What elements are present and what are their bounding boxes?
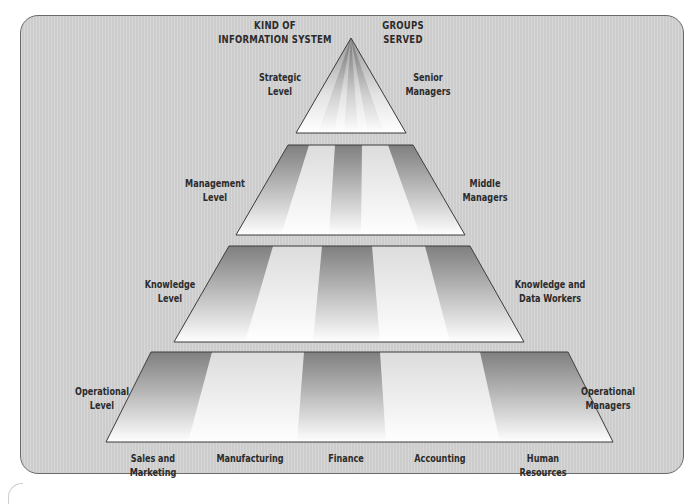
label-line: Middle — [451, 176, 520, 190]
label-operational-managers: Operational Managers — [569, 384, 646, 412]
label-line: Managers — [394, 84, 463, 98]
header-right-line-2: SERVED — [373, 33, 433, 47]
label-line: Managers — [451, 190, 520, 204]
label-line: Senior — [394, 70, 463, 84]
label-management-level: Management Level — [176, 176, 253, 204]
label-line: Managers — [569, 398, 646, 412]
header-right-line-1: GROUPS — [373, 19, 433, 33]
label-line: Level — [68, 398, 137, 412]
label-line: Management — [176, 176, 253, 190]
label-senior-managers: Senior Managers — [394, 70, 463, 98]
label-line: Operational — [68, 384, 137, 398]
label-knowledge-level: Knowledge Level — [136, 277, 205, 305]
label-strategic-level: Strategic Level — [250, 70, 310, 98]
label-line: Operational — [569, 384, 646, 398]
label-operational-level: Operational Level — [68, 384, 137, 412]
label-manufacturing: Manufacturing — [207, 451, 293, 465]
label-line: Level — [250, 84, 310, 98]
tier-knowledge — [174, 246, 524, 342]
label-line: Strategic — [250, 70, 310, 84]
label-line: Finance — [316, 451, 376, 465]
label-line: Level — [176, 190, 253, 204]
label-line: Level — [136, 291, 205, 305]
label-sales-and-marketing: Sales and Marketing — [119, 451, 188, 479]
header-left-line-1: KIND OF — [211, 19, 340, 33]
label-line: Resources — [509, 465, 578, 479]
header-kind-of-information-system: KIND OF INFORMATION SYSTEM — [211, 19, 340, 47]
label-human-resources: Human Resources — [509, 451, 578, 479]
label-line: Data Workers — [507, 291, 593, 305]
label-line: Marketing — [119, 465, 188, 479]
label-finance: Finance — [316, 451, 376, 465]
label-line: Knowledge and — [507, 277, 593, 291]
tier-management — [236, 145, 465, 235]
label-line: Sales and — [119, 451, 188, 465]
header-groups-served: GROUPS SERVED — [373, 19, 433, 47]
label-knowledge-and-data-workers: Knowledge and Data Workers — [507, 277, 593, 305]
tier-strategic — [296, 38, 406, 133]
header-left-line-2: INFORMATION SYSTEM — [211, 33, 340, 47]
label-line: Knowledge — [136, 277, 205, 291]
label-middle-managers: Middle Managers — [451, 176, 520, 204]
label-line: Accounting — [406, 451, 475, 465]
label-line: Human — [509, 451, 578, 465]
tier-operational — [106, 352, 613, 442]
label-line: Manufacturing — [207, 451, 293, 465]
label-accounting: Accounting — [406, 451, 475, 465]
